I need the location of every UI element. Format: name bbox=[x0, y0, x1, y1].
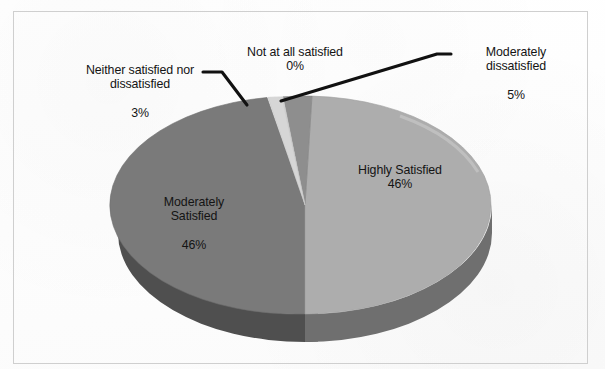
slice-percent-not-at-all: 0% bbox=[215, 59, 375, 74]
slice-label-highly-satisfied-line1: Highly Satisfied bbox=[358, 163, 442, 177]
slice-label-moderately-dissatisfied: Moderately dissatisfied 5% bbox=[452, 30, 580, 118]
slice-label-neither-line2: dissatisfied bbox=[56, 77, 224, 92]
slice-label-moderately-dissatisfied-line1: Moderately bbox=[486, 45, 546, 59]
slice-label-not-at-all-satisfied: Not at all satisfied 0% bbox=[215, 30, 375, 88]
slice-percent-moderately-dissatisfied: 5% bbox=[452, 88, 580, 103]
slice-label-neither-satisfied-nor-dissatisfied: Neither satisfied nor dissatisfied 3% bbox=[56, 48, 224, 136]
slice-label-moderately-satisfied-line1: Moderately bbox=[164, 195, 224, 209]
slice-label-moderately-satisfied: Moderately Satisfied 46% bbox=[126, 180, 262, 268]
slice-label-moderately-dissatisfied-line2: dissatisfied bbox=[452, 59, 580, 74]
pie-chart: Neither satisfied nor dissatisfied 3% No… bbox=[0, 0, 605, 369]
slice-percent-highly-satisfied: 46% bbox=[330, 177, 470, 192]
slice-percent-moderately-satisfied: 46% bbox=[126, 238, 262, 253]
slice-label-moderately-satisfied-line2: Satisfied bbox=[126, 209, 262, 224]
slice-label-highly-satisfied: Highly Satisfied 46% bbox=[330, 148, 470, 206]
slice-label-not-at-all-line1: Not at all satisfied bbox=[247, 45, 343, 59]
figure-page: Neither satisfied nor dissatisfied 3% No… bbox=[0, 0, 605, 369]
slice-percent-neither: 3% bbox=[56, 106, 224, 121]
slice-label-neither-line1: Neither satisfied nor bbox=[86, 63, 194, 77]
